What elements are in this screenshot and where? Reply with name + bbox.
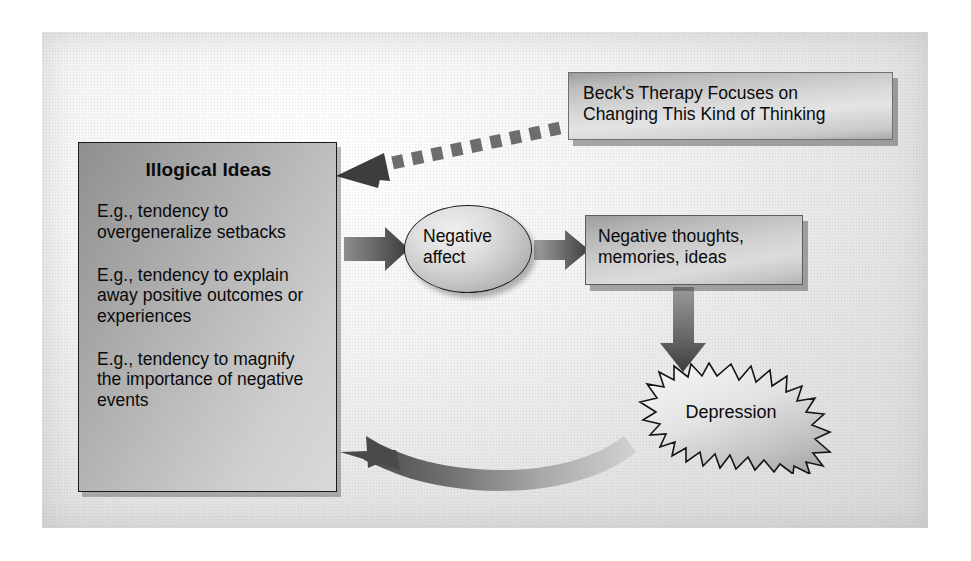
negative-affect-line-1: Negative	[423, 226, 531, 247]
node-depression: Depression	[612, 362, 850, 474]
beck-callout-line-1: Beck's Therapy Focuses on	[583, 83, 892, 104]
illogical-ideas-item-2: E.g., tendency to explain away positive …	[97, 265, 320, 327]
negative-affect-line-2: affect	[423, 247, 531, 268]
negative-thoughts-line-1: Negative thoughts,	[598, 226, 802, 247]
illogical-ideas-item-3: E.g., tendency to magnify the importance…	[97, 349, 320, 411]
negative-thoughts-line-2: memories, ideas	[598, 247, 802, 268]
diagram-canvas: Illogical Ideas E.g., tendency to overge…	[0, 0, 971, 561]
depression-label: Depression	[612, 402, 850, 423]
node-negative-thoughts: Negative thoughts, memories, ideas	[585, 215, 803, 285]
node-beck-therapy-callout: Beck's Therapy Focuses on Changing This …	[568, 72, 893, 140]
illogical-ideas-item-1: E.g., tendency to overgeneralize setback…	[97, 201, 320, 242]
node-illogical-ideas: Illogical Ideas E.g., tendency to overge…	[78, 142, 337, 492]
beck-callout-line-2: Changing This Kind of Thinking	[583, 104, 892, 125]
illogical-ideas-title: Illogical Ideas	[97, 159, 320, 181]
node-negative-affect: Negative affect	[404, 205, 532, 293]
